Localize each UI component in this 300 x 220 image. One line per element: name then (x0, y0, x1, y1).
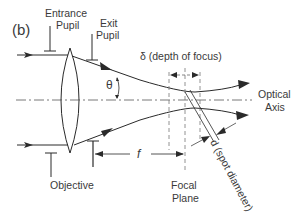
focal-length-label: f (137, 147, 142, 161)
arrow-icon (192, 72, 199, 78)
spot-line-2 (190, 90, 219, 140)
optics-diagram: (b) Entrance Pupil Exit Pupil Optical Ax… (0, 0, 300, 220)
arrow-icon (170, 72, 177, 78)
focal-plane-label: Focal (171, 179, 197, 191)
focal-plane-label-2: Plane (172, 192, 199, 204)
arrow-icon (236, 111, 249, 120)
theta-label: θ (106, 78, 113, 92)
arrow-icon (101, 128, 113, 137)
spot-line-1 (185, 92, 214, 142)
arrow-icon (95, 151, 103, 157)
optical-axis-label: Optical (258, 88, 291, 100)
arrow-icon (176, 151, 184, 157)
spot-diameter-label: d (spot diameter) (208, 137, 256, 213)
entrance-pupil-label-2: Pupil (56, 19, 79, 31)
spot-dimension-lower (191, 139, 204, 146)
exit-pupil-label: Exit (100, 17, 118, 29)
arrow-icon (115, 95, 119, 99)
arrow-icon (100, 62, 112, 70)
exit-pupil-label-2: Pupil (96, 29, 119, 41)
depth-of-focus-label: δ (depth of focus) (140, 50, 222, 62)
arrow-icon (116, 77, 119, 81)
arrow-icon (238, 80, 250, 89)
entrance-pupil-label: Entrance (45, 7, 87, 19)
panel-label: (b) (12, 21, 30, 38)
objective-label: Objective (50, 179, 94, 191)
optical-axis-label-2: Axis (265, 101, 285, 113)
objective-lens (61, 48, 79, 153)
arrow-icon (216, 127, 226, 135)
